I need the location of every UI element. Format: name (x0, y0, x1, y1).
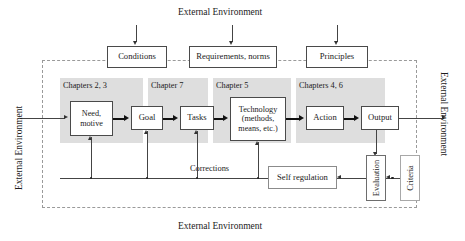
conditions-label: Conditions (118, 52, 156, 62)
input-arrow-head (64, 115, 68, 119)
corrections-to-tasks-line (197, 131, 198, 178)
need-to-goal-head (124, 115, 129, 121)
output-to-evaluation-line (376, 130, 377, 154)
right-external-environment-label: External Environment (439, 72, 449, 156)
action-to-output-head (354, 115, 359, 121)
need-motive-line1: Need, (82, 109, 101, 118)
technology-line3: means, etc.) (238, 124, 277, 133)
arrow-top-to-principles-head (334, 41, 338, 45)
goal-label: Goal (139, 113, 156, 123)
tasks-box[interactable]: Tasks (180, 106, 214, 130)
action-box[interactable]: Action (306, 106, 344, 130)
tasks-to-technology-head (223, 115, 228, 121)
top-external-environment-label: External Environment (178, 8, 262, 18)
output-label: Output (368, 113, 392, 123)
action-label: Action (313, 113, 336, 123)
corrections-to-tasks-head (194, 130, 198, 134)
corrections-to-technology-line (258, 142, 259, 178)
criteria-to-evaluation-head (386, 175, 390, 179)
need-motive-box[interactable]: Need, motive (70, 101, 113, 136)
principles-box[interactable]: Principles (306, 46, 368, 68)
evaluation-box[interactable]: Evaluation (366, 155, 386, 201)
principles-label: Principles (320, 52, 354, 62)
technology-to-action-line (286, 118, 300, 120)
technology-line1: Technology (239, 105, 278, 114)
self-regulation-label: Self regulation (277, 173, 328, 183)
requirements-box[interactable]: Requirements, norms (189, 46, 277, 68)
panel-label-chapter-7: Chapter 7 (151, 81, 184, 90)
criteria-label: Criteria (406, 165, 415, 191)
tasks-label: Tasks (187, 113, 206, 123)
corrections-to-technology-head (255, 141, 259, 145)
corrections-label: Corrections (190, 165, 229, 174)
corrections-to-need-head (88, 136, 92, 140)
panel-label-chapter-5: Chapter 5 (216, 81, 249, 90)
evaluation-to-self-regulation-head (337, 175, 341, 179)
technology-line2: (methods, (242, 114, 275, 123)
technology-to-action-head (299, 115, 304, 121)
arrow-top-to-requirements-line (232, 25, 233, 42)
self-regulation-box[interactable]: Self regulation (268, 166, 337, 189)
need-motive-line2: motive (80, 119, 103, 128)
corrections-to-need-line (91, 137, 92, 178)
criteria-junction-dot (391, 177, 394, 180)
diagram-canvas: External Environment Conditions Requirem… (0, 0, 465, 241)
technology-box[interactable]: Technology (methods, means, etc.) (230, 97, 286, 141)
panel-label-chapters-4-6: Chapters 4, 6 (299, 81, 343, 90)
arrow-top-to-principles-line (337, 25, 338, 42)
criteria-box[interactable]: Criteria (400, 155, 420, 201)
conditions-box[interactable]: Conditions (107, 46, 167, 68)
corrections-to-goal-line (147, 131, 148, 178)
input-arrow-line (20, 118, 65, 119)
left-external-environment-label: External Environment (14, 106, 24, 190)
goal-box[interactable]: Goal (131, 106, 163, 130)
evaluation-to-self-regulation-line (337, 178, 366, 179)
arrow-top-to-requirements-head (229, 41, 233, 45)
goal-to-tasks-head (173, 115, 178, 121)
panel-label-chapters-2-3: Chapters 2, 3 (63, 81, 107, 90)
arrow-top-to-conditions-line (136, 25, 137, 42)
requirements-label: Requirements, norms (196, 52, 270, 62)
arrow-top-to-conditions-head (133, 41, 137, 45)
output-exit-line (399, 118, 444, 119)
bottom-external-environment-label: External Environment (178, 222, 262, 232)
evaluation-label: Evaluation (372, 160, 381, 196)
corrections-to-goal-head (144, 130, 148, 134)
output-box[interactable]: Output (361, 106, 399, 130)
